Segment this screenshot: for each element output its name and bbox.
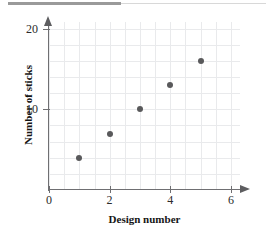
data-point (137, 106, 143, 112)
x-axis-title: Design number (49, 213, 240, 225)
x-axis-tick-label: 6 (219, 194, 243, 206)
gridline-horizontal (49, 125, 240, 126)
x-axis-tick (231, 186, 232, 193)
gridline-horizontal (49, 93, 240, 94)
x-axis-tick (170, 186, 171, 193)
gridline-horizontal (49, 174, 240, 175)
x-axis-tick (110, 186, 111, 193)
plot-area (49, 22, 240, 190)
data-point (167, 82, 173, 88)
y-axis-line (48, 24, 49, 191)
gridline-vertical (201, 22, 202, 190)
data-point (198, 58, 204, 64)
gridline-horizontal (49, 45, 240, 46)
data-point (76, 155, 82, 161)
gridline-vertical (216, 22, 217, 190)
x-axis-tick-label: 4 (158, 194, 182, 206)
scatter-plot: Design number Number of sticks 10200246 (0, 0, 271, 234)
data-point (107, 131, 113, 137)
y-axis-tick-label: 20 (8, 23, 38, 35)
x-axis-tick (49, 186, 50, 193)
gridline-horizontal (49, 142, 240, 143)
y-axis-tick (43, 29, 50, 30)
x-axis-arrow-icon (240, 185, 250, 193)
gridline-vertical (79, 22, 80, 190)
y-axis-tick (43, 109, 50, 110)
y-axis-tick-label: 10 (8, 103, 38, 115)
gridline-vertical (125, 22, 126, 190)
gridline-vertical (95, 22, 96, 190)
x-axis-tick-label: 0 (37, 194, 61, 206)
x-axis-tick-label: 2 (98, 194, 122, 206)
gridline-vertical (155, 22, 156, 190)
gridline-vertical (110, 22, 111, 190)
gridline-horizontal (49, 109, 240, 110)
gridline-vertical (170, 22, 171, 190)
gridline-vertical (231, 22, 232, 190)
gridline-horizontal (49, 61, 240, 62)
y-axis-arrow-icon (44, 16, 52, 26)
gridline-horizontal (49, 29, 240, 30)
gridline-horizontal (49, 77, 240, 78)
gridline-vertical (64, 22, 65, 190)
x-axis-line (48, 189, 243, 190)
gridline-vertical (185, 22, 186, 190)
